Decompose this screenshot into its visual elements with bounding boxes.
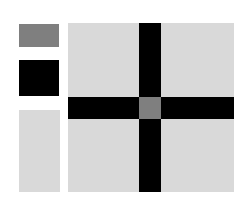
light-swatch xyxy=(19,110,60,192)
cross-panel xyxy=(68,23,234,192)
black-swatch xyxy=(19,60,59,96)
center-square xyxy=(139,97,161,119)
gray-swatch xyxy=(19,24,59,47)
